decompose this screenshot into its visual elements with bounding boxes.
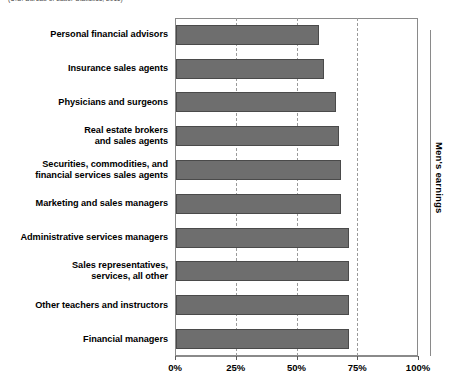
bar bbox=[176, 329, 349, 349]
bar-chart: Personal financial advisorsInsurance sal… bbox=[0, 12, 458, 372]
bar-row: Physicians and surgeons bbox=[0, 86, 458, 120]
right-axis-line bbox=[430, 30, 431, 356]
x-tick bbox=[175, 356, 176, 360]
x-tick-label: 75% bbox=[335, 362, 379, 373]
bar-row: Marketing and sales managers bbox=[0, 187, 458, 221]
bar bbox=[176, 25, 319, 45]
bar bbox=[176, 295, 349, 315]
x-tick bbox=[418, 356, 419, 360]
bar bbox=[176, 160, 341, 180]
bar-rows: Personal financial advisorsInsurance sal… bbox=[0, 18, 458, 356]
category-label: Financial managers bbox=[0, 334, 168, 345]
bar bbox=[176, 228, 349, 248]
bar bbox=[176, 92, 336, 112]
bar-row: Insurance sales agents bbox=[0, 52, 458, 86]
right-axis-label: Men's earnings bbox=[434, 142, 445, 214]
category-label: Insurance sales agents bbox=[0, 63, 168, 74]
category-label: Sales representatives,services, all othe… bbox=[0, 260, 168, 282]
category-label: Other teachers and instructors bbox=[0, 300, 168, 311]
x-tick-label: 50% bbox=[275, 362, 319, 373]
x-tick bbox=[236, 356, 237, 360]
bar bbox=[176, 261, 349, 281]
source-note: (U.S. Bureau of Labor Statistics, 2011) bbox=[8, 0, 123, 3]
bar-row: Financial managers bbox=[0, 322, 458, 356]
bar-row: Sales representatives,services, all othe… bbox=[0, 255, 458, 289]
category-label: Real estate brokersand sales agents bbox=[0, 125, 168, 147]
category-label: Administrative services managers bbox=[0, 232, 168, 243]
bar bbox=[176, 59, 324, 79]
bar-row: Administrative services managers bbox=[0, 221, 458, 255]
x-tick bbox=[357, 356, 358, 360]
bar-row: Securities, commodities, andfinancial se… bbox=[0, 153, 458, 187]
x-tick bbox=[297, 356, 298, 360]
bar-row: Personal financial advisors bbox=[0, 18, 458, 52]
bar bbox=[176, 194, 341, 214]
category-label: Physicians and surgeons bbox=[0, 97, 168, 108]
category-label: Personal financial advisors bbox=[0, 29, 168, 40]
bar-row: Other teachers and instructors bbox=[0, 288, 458, 322]
bar bbox=[176, 126, 339, 146]
bar-row: Real estate brokersand sales agents bbox=[0, 119, 458, 153]
x-tick-label: 0% bbox=[153, 362, 197, 373]
x-tick-label: 25% bbox=[214, 362, 258, 373]
category-label: Securities, commodities, andfinancial se… bbox=[0, 159, 168, 181]
category-label: Marketing and sales managers bbox=[0, 198, 168, 209]
x-tick-label: 100% bbox=[396, 362, 440, 373]
